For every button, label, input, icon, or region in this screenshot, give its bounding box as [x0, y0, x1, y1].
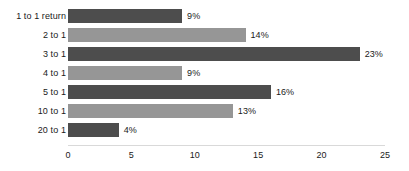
x-tick-label: 15 — [238, 150, 278, 160]
bar-value-label: 23% — [365, 47, 383, 61]
category-label: 10 to 1 — [0, 104, 66, 118]
bar-value-label: 4% — [124, 123, 137, 137]
bar — [68, 85, 271, 99]
bar-value-label: 9% — [187, 66, 200, 80]
bar — [68, 123, 119, 137]
x-tick-label: 10 — [175, 150, 215, 160]
category-label: 4 to 1 — [0, 66, 66, 80]
bar-row: 20 to 14% — [0, 123, 409, 137]
category-label: 20 to 1 — [0, 123, 66, 137]
x-tick-label: 25 — [365, 150, 405, 160]
bar — [68, 9, 182, 23]
x-tick-label: 5 — [111, 150, 151, 160]
category-label: 2 to 1 — [0, 28, 66, 42]
bar-row: 3 to 123% — [0, 47, 409, 61]
bar-value-label: 13% — [238, 104, 256, 118]
bar — [68, 104, 233, 118]
bar-value-label: 14% — [251, 28, 269, 42]
bar — [68, 28, 246, 42]
plot-area: 1 to 1 return9%2 to 114%3 to 123%4 to 19… — [0, 0, 409, 171]
bar-row: 1 to 1 return9% — [0, 9, 409, 23]
bar-row: 10 to 113% — [0, 104, 409, 118]
bar-value-label: 16% — [276, 85, 294, 99]
bar — [68, 66, 182, 80]
bar-row: 4 to 19% — [0, 66, 409, 80]
x-tick-label: 20 — [302, 150, 342, 160]
category-label: 1 to 1 return — [0, 9, 66, 23]
bar-row: 5 to 116% — [0, 85, 409, 99]
bar — [68, 47, 360, 61]
x-tick-label: 0 — [48, 150, 88, 160]
x-axis-line — [68, 145, 385, 146]
category-label: 3 to 1 — [0, 47, 66, 61]
bar-row: 2 to 114% — [0, 28, 409, 42]
bar-chart: 1 to 1 return9%2 to 114%3 to 123%4 to 19… — [0, 0, 409, 171]
bar-value-label: 9% — [187, 9, 200, 23]
category-label: 5 to 1 — [0, 85, 66, 99]
